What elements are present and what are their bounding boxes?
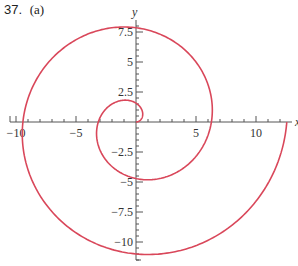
y-axis-label: y	[131, 5, 138, 19]
axes: −10−55107.552.5−2.5−5−7.5−10xy	[7, 5, 298, 260]
x-tick-label: −5	[70, 126, 83, 140]
spiral-curve	[22, 27, 287, 254]
y-tick-label: 2.5	[118, 85, 133, 99]
x-axis-label: x	[294, 115, 298, 129]
y-tick-label: −10	[114, 235, 133, 249]
x-tick-label: 5	[193, 126, 199, 140]
y-tick-label: −2.5	[111, 145, 133, 159]
y-tick-label: −7.5	[111, 205, 133, 219]
spiral-chart: −10−55107.552.5−2.5−5−7.5−10xy	[0, 0, 298, 266]
x-tick-label: 10	[250, 126, 262, 140]
y-tick-label: 5	[127, 55, 133, 69]
